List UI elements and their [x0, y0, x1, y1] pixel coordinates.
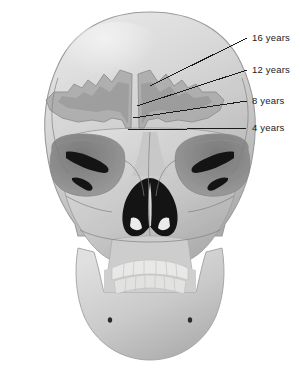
skull-illustration — [0, 0, 300, 381]
label-4-years: 4 years — [252, 123, 285, 133]
label-12-years: 12 years — [252, 65, 290, 75]
label-8-years: 8 years — [252, 96, 285, 106]
orbit-right — [175, 134, 250, 196]
label-16-years: 16 years — [252, 33, 290, 43]
diagram-canvas: 16 years 12 years 8 years 4 years — [0, 0, 300, 381]
orbit-left — [50, 134, 125, 196]
